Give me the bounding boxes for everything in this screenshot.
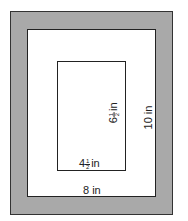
unit: in — [91, 157, 100, 169]
fraction-denominator: 2 — [114, 112, 119, 117]
fraction-denominator: 2 — [85, 165, 90, 170]
picture-width-label: 412in — [79, 158, 100, 170]
picture-height-label: 612in — [108, 102, 120, 123]
picture-width-fraction: 12 — [85, 159, 90, 170]
picture-height-whole: 6 — [107, 117, 119, 123]
picture-height-fraction: 12 — [108, 112, 119, 117]
mat-width-label: 8 in — [83, 185, 101, 196]
mat-height-label: 10 in — [143, 106, 154, 130]
unit: in — [107, 102, 119, 111]
